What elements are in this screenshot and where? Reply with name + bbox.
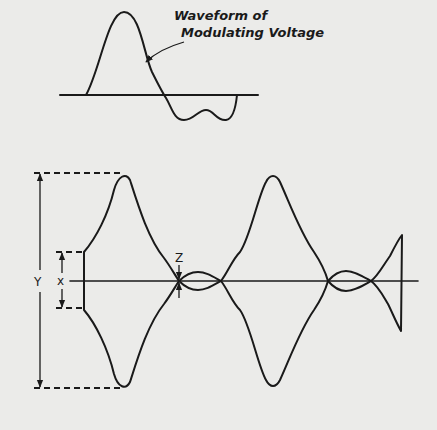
am-diagram: Waveform of Modulating Voltage Y x Z [0, 0, 437, 430]
modulated-wave: Y x Z [33, 173, 418, 388]
waveform-label-line2: Modulating Voltage [181, 25, 324, 40]
modulating-waveform: Waveform of Modulating Voltage [60, 8, 324, 120]
lobe-5 [371, 235, 402, 331]
y-label: Y [33, 275, 42, 289]
x-label: x [57, 274, 64, 288]
waveform-label-line1: Waveform of [174, 8, 270, 23]
label-arrow [146, 42, 184, 62]
z-label: Z [175, 251, 183, 265]
